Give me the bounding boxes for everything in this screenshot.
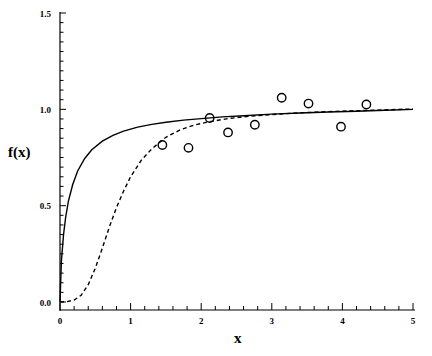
- data-point-marker: [362, 100, 370, 108]
- x-axis-label: x: [234, 330, 242, 347]
- x-tick-label: 1: [128, 316, 133, 326]
- x-tick-label: 4: [340, 316, 345, 326]
- y-tick-label: 1.5: [40, 9, 52, 19]
- y-tick-label: 0.0: [40, 298, 52, 308]
- y-axis: 0.00.51.01.5: [40, 9, 66, 312]
- scatter-series-observed: [158, 94, 370, 152]
- data-point-marker: [224, 128, 232, 136]
- data-point-marker: [251, 121, 259, 129]
- data-point-marker: [184, 144, 192, 152]
- plot-figure: 0.00.51.01.5012345: [0, 0, 432, 356]
- x-tick-label: 5: [411, 316, 416, 326]
- data-point-marker: [304, 99, 312, 107]
- y-tick-label: 0.5: [40, 201, 52, 211]
- curve-dashed-curve: [60, 109, 413, 302]
- x-axis: 012345: [58, 303, 416, 326]
- curve-solid-curve: [60, 109, 413, 302]
- data-point-marker: [337, 122, 345, 130]
- x-tick-label: 0: [58, 316, 63, 326]
- x-tick-label: 2: [199, 316, 204, 326]
- x-tick-label: 3: [270, 316, 275, 326]
- y-tick-label: 1.0: [40, 105, 52, 115]
- y-axis-label: f(x): [8, 144, 31, 161]
- plot-canvas: 0.00.51.01.5012345: [0, 0, 432, 356]
- data-point-marker: [277, 94, 285, 102]
